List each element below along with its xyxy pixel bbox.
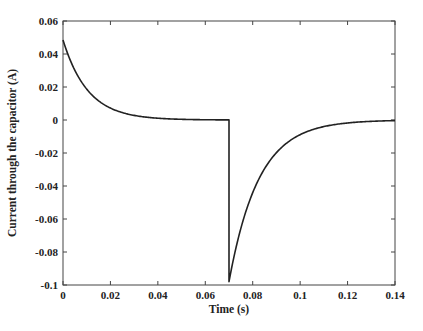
y-tick-label: 0.04: [39, 48, 59, 60]
y-tick-label: 0: [53, 114, 59, 126]
y-tick-label: -0.1: [41, 279, 58, 291]
x-tick-label: 0.06: [196, 289, 216, 301]
current-curve: [63, 40, 395, 282]
y-tick-label: -0.06: [35, 213, 58, 225]
y-tick-label: -0.04: [35, 180, 58, 192]
x-tick-label: 0.12: [338, 289, 358, 301]
y-tick-label: 0.02: [39, 81, 59, 93]
y-tick-label: -0.08: [35, 246, 58, 258]
y-axis-ticks: 0.060.040.020-0.02-0.04-0.06-0.08-0.1: [35, 15, 395, 291]
x-tick-label: 0: [60, 289, 66, 301]
x-tick-label: 0.14: [385, 289, 405, 301]
y-tick-label: -0.02: [35, 147, 58, 159]
x-tick-label: 0.04: [148, 289, 168, 301]
x-axis-title: Time (s): [209, 303, 250, 316]
x-tick-label: 0.08: [243, 289, 263, 301]
x-tick-label: 0.02: [101, 289, 121, 301]
line-chart: 00.020.040.060.080.10.120.14 0.060.040.0…: [0, 0, 423, 331]
x-tick-label: 0.1: [293, 289, 307, 301]
y-axis-title: Current through the capacitor (A): [6, 69, 19, 237]
y-tick-label: 0.06: [39, 15, 59, 27]
